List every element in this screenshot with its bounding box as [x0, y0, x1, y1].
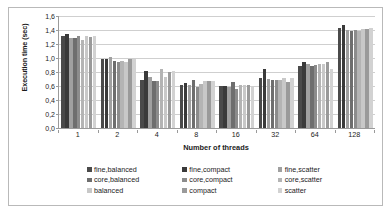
bar — [278, 80, 281, 128]
legend-item[interactable]: balanced — [87, 185, 178, 196]
bar — [172, 71, 175, 128]
bar-group — [217, 16, 257, 128]
bar — [152, 81, 155, 128]
x-axis-tickmark — [256, 130, 257, 133]
bar — [361, 29, 364, 128]
bar — [231, 82, 234, 128]
bar-group — [336, 16, 376, 128]
bar — [77, 36, 80, 128]
bar — [207, 81, 210, 128]
bar — [338, 28, 341, 128]
bar — [275, 80, 278, 128]
bar — [330, 69, 333, 129]
legend-swatch-icon — [278, 178, 283, 183]
bar — [314, 65, 317, 128]
y-axis-tick-label: 0,6 — [45, 83, 55, 90]
legend-swatch-icon — [182, 178, 187, 183]
bar — [251, 87, 254, 128]
bar — [357, 31, 360, 128]
x-axis-tick-label: 32 — [256, 130, 296, 142]
plot-area — [58, 16, 375, 129]
x-axis-tick-label: 128 — [335, 130, 375, 142]
bar — [192, 80, 195, 128]
bar — [326, 62, 329, 128]
y-axis-tick-labels: 0,00,20,40,60,81,01,21,41,6 — [31, 16, 55, 128]
legend-item[interactable]: core,balanced — [87, 175, 178, 186]
bar — [196, 87, 199, 128]
bar — [369, 28, 372, 128]
bar-group — [296, 16, 336, 128]
bar — [105, 59, 108, 128]
bar — [140, 80, 143, 128]
bar — [267, 79, 270, 128]
bar — [89, 37, 92, 128]
bar — [101, 59, 104, 128]
plot-wrapper: Execution time (sec) 0,00,20,40,60,81,01… — [9, 8, 384, 160]
bar — [199, 84, 202, 128]
y-axis-tick-label: 0,8 — [45, 69, 55, 76]
legend-swatch-icon — [182, 167, 187, 172]
bar — [132, 59, 135, 128]
x-axis-title: Number of threads — [58, 143, 374, 152]
bar — [322, 64, 325, 128]
bar — [342, 25, 345, 128]
bar-group — [138, 16, 178, 128]
bar — [318, 64, 321, 128]
bar — [247, 85, 250, 128]
x-axis-tickmark — [374, 130, 375, 133]
bar-group — [99, 16, 139, 128]
bar — [350, 31, 353, 128]
legend-item[interactable]: fine,compact — [182, 164, 273, 175]
legend-swatch-icon — [278, 167, 283, 172]
bar-series-container — [59, 16, 375, 128]
legend-item[interactable]: fine,balanced — [87, 164, 178, 175]
bar — [124, 62, 127, 128]
x-axis-tickmark — [58, 130, 59, 133]
bar — [243, 85, 246, 128]
legend-swatch-icon — [87, 188, 92, 193]
x-axis-tick-labels: 1248163264128 — [58, 130, 374, 142]
legend-item[interactable]: core,scatter — [278, 175, 369, 186]
bar — [73, 38, 76, 128]
x-axis-tickmark — [216, 130, 217, 133]
bar — [160, 69, 163, 128]
bar — [354, 30, 357, 128]
bar — [219, 86, 222, 128]
bar — [290, 78, 293, 128]
legend-label: core,compact — [189, 176, 232, 183]
bar — [69, 38, 72, 128]
bar — [310, 66, 313, 128]
legend-label: compact — [189, 187, 216, 194]
bar — [85, 36, 88, 128]
bar — [203, 81, 206, 128]
chart-frame: Execution time (sec) 0,00,20,40,60,81,01… — [8, 7, 383, 206]
x-axis-tickmark — [177, 130, 178, 133]
legend-item[interactable]: compact — [182, 185, 273, 196]
legend-item[interactable]: fine,scatter — [278, 164, 369, 175]
y-axis-tick-label: 0,2 — [45, 111, 55, 118]
x-axis-tick-label: 16 — [216, 130, 256, 142]
bar — [259, 78, 262, 128]
bar — [156, 81, 159, 128]
x-axis-tickmark — [137, 130, 138, 133]
bar — [302, 62, 305, 129]
legend-item[interactable]: core,compact — [182, 175, 273, 186]
x-axis-tick-label: 64 — [295, 130, 335, 142]
legend-label: core,scatter — [285, 176, 323, 183]
bar — [239, 85, 242, 128]
legend-label: fine,scatter — [285, 166, 320, 173]
bar — [211, 81, 214, 128]
bar — [188, 85, 191, 128]
y-axis-tick-label: 1,2 — [45, 41, 55, 48]
x-axis-tick-label: 4 — [137, 130, 177, 142]
bar — [271, 80, 274, 128]
legend-item[interactable]: scatter — [278, 185, 369, 196]
legend-swatch-icon — [182, 188, 187, 193]
y-axis-title: Execution time (sec) — [20, 3, 29, 113]
bar — [148, 77, 151, 128]
bar — [93, 36, 96, 128]
x-axis-tickmark — [98, 130, 99, 133]
y-axis-tick-label: 0,4 — [45, 97, 55, 104]
bar-group — [178, 16, 218, 128]
bar — [365, 29, 368, 128]
